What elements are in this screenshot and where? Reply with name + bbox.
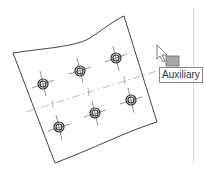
hole-icon — [105, 46, 127, 71]
tooltip: Auxiliary — [159, 67, 203, 83]
hole-icon — [48, 115, 70, 140]
hole-icon — [32, 71, 54, 96]
plate-drawing[interactable] — [0, 0, 204, 169]
cursor-icon — [157, 45, 179, 66]
plate-outline — [13, 16, 157, 163]
hole-markers — [32, 46, 142, 140]
cad-viewport[interactable]: Auxiliary — [0, 0, 204, 169]
hole-icon — [69, 58, 91, 83]
hole-icon — [120, 88, 142, 113]
vertical-guide-line — [193, 8, 194, 163]
auxiliary-box-icon — [166, 56, 179, 66]
hole-icon — [84, 101, 106, 126]
